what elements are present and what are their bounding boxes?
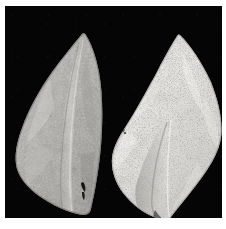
photo-plate xyxy=(5,6,222,218)
left-biface-body xyxy=(10,32,110,215)
artifact-left-biface xyxy=(10,32,110,215)
plate-lower-margin xyxy=(0,218,226,229)
right-biface-body xyxy=(105,34,222,218)
artifact-right-biface xyxy=(105,34,222,218)
figure-root xyxy=(0,0,226,229)
